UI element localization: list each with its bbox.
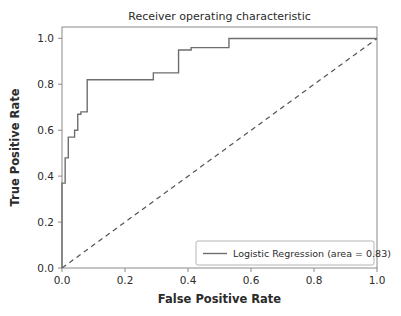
roc-chart-svg: Receiver operating characteristic 0.0 0.… [0,0,401,316]
y-tick-label: 0.6 [37,124,54,136]
x-tick-label: 0.6 [243,274,260,286]
y-tick-label: 0.8 [37,78,54,90]
plot-area-frame [62,27,377,268]
chart-title: Receiver operating characteristic [128,10,311,23]
x-tick-label: 0.4 [180,274,197,286]
y-tick-label: 0.2 [37,216,54,228]
x-axis-title: False Positive Rate [158,292,281,306]
y-axis-title: True Positive Rate [8,88,22,206]
x-tick-label: 0.0 [54,274,71,286]
legend-entry-label: Logistic Regression (area = 0.83) [233,248,391,259]
x-tick-label: 1.0 [369,274,386,286]
y-tick-label: 0.0 [37,262,54,274]
y-tick-label: 0.4 [37,170,54,182]
x-tick-label: 0.8 [306,274,323,286]
chart-legend[interactable]: Logistic Regression (area = 0.83) [196,241,391,265]
roc-chart-figure: Receiver operating characteristic 0.0 0.… [0,0,401,316]
y-tick-label: 1.0 [37,32,54,44]
x-tick-label: 0.2 [117,274,134,286]
